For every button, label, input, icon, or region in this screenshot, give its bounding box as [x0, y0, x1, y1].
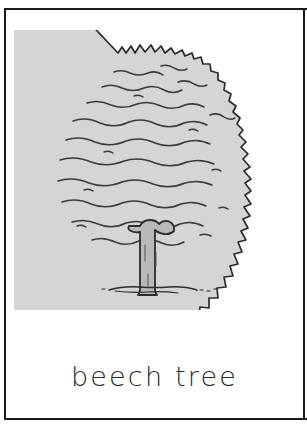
canopy-group — [14, 30, 251, 310]
flashcard: beech tree — [0, 0, 305, 427]
card-caption: beech tree — [6, 360, 303, 394]
card-border-right — [303, 8, 305, 420]
card-border-bottom — [4, 418, 305, 420]
beech-tree-illustration — [14, 30, 292, 310]
card-border-top — [4, 8, 305, 10]
canopy-shape — [14, 30, 251, 310]
card-border-left — [4, 8, 6, 420]
